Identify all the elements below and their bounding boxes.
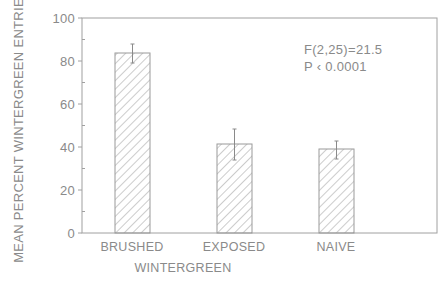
bar-brushed — [115, 53, 150, 233]
annotation-f-statistic: F(2,25)=21.5 — [304, 42, 382, 57]
ytick-label: 0 — [67, 226, 75, 241]
x-axis-label: WINTERGREEN — [134, 261, 231, 275]
bar-naive — [319, 149, 354, 233]
x-axis-tick-labels: BRUSHED EXPOSED NAIVE — [100, 240, 355, 254]
category-label-naive: NAIVE — [316, 240, 355, 254]
bar-chart: 0 20 40 60 80 100 MEAN PERCENT WINTERGRE… — [0, 0, 446, 281]
category-label-exposed: EXPOSED — [203, 240, 266, 254]
y-axis-tick-labels: 0 20 40 60 80 100 — [52, 11, 75, 241]
ytick-label: 60 — [60, 97, 75, 112]
ytick-label: 20 — [60, 183, 75, 198]
annotation-p-value: P ‹ 0.0001 — [304, 59, 367, 74]
y-axis-label: MEAN PERCENT WINTERGREEN ENTRIES — [11, 0, 26, 263]
ytick-label: 40 — [60, 140, 75, 155]
category-label-brushed: BRUSHED — [100, 240, 163, 254]
ytick-label: 100 — [52, 11, 75, 26]
ytick-label: 80 — [60, 54, 75, 69]
